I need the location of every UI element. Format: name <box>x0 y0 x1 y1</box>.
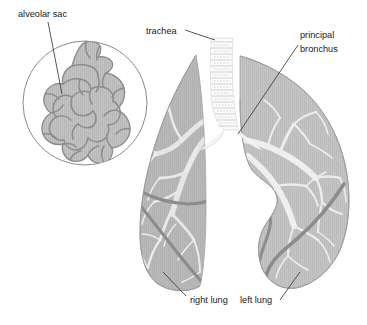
alveolar-sac-inset <box>23 41 147 165</box>
lungs-diagram: alveolar sac trachea principal bronchus … <box>0 0 367 325</box>
label-principal-bronchus-line1: principal <box>300 30 334 40</box>
label-right-lung: right lung <box>190 295 228 305</box>
label-alveolar-sac: alveolar sac <box>18 9 67 19</box>
label-trachea: trachea <box>146 26 178 36</box>
label-principal-bronchus-line2: bronchus <box>300 44 338 54</box>
label-left-lung: left lung <box>240 295 272 305</box>
